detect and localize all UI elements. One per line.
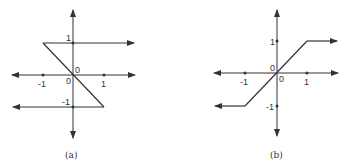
tick-dot: [72, 106, 75, 109]
tick-label-x-neg: -1: [240, 77, 248, 87]
caption-b: (b): [270, 150, 283, 160]
tick-label-y-neg: -1: [266, 102, 274, 112]
tick-dot: [306, 72, 309, 75]
tick-label-x-neg: -1: [38, 79, 46, 89]
caption-a: (a): [65, 150, 77, 160]
tick-label-y-pos: 1: [66, 33, 71, 43]
panel-b: 1 -1 -1 1 0 0 (b): [214, 10, 338, 160]
tick-dot: [103, 74, 106, 77]
tick-dot: [72, 42, 75, 45]
tick-label-y-neg: -1: [62, 97, 70, 107]
tick-dot: [42, 74, 45, 77]
panel-a: 1 -1 -1 1 0 0 (a): [12, 10, 135, 160]
tick-label-x-pos: 1: [304, 77, 309, 87]
tick-label-y-pos: 1: [270, 37, 275, 47]
tick-dot: [276, 105, 279, 108]
tick-dot: [244, 72, 247, 75]
diagram-canvas: 1 -1 -1 1 0 0 (a) 1 -1 -1 1 0 0 (b): [0, 0, 348, 168]
tick-label-x-pos: 1: [101, 79, 106, 89]
origin-label-lower: 0: [279, 74, 284, 84]
tick-dot: [276, 40, 279, 43]
origin-label-upper: 0: [75, 65, 80, 75]
origin-label-upper: 0: [270, 63, 275, 73]
origin-label-lower: 0: [66, 76, 71, 86]
